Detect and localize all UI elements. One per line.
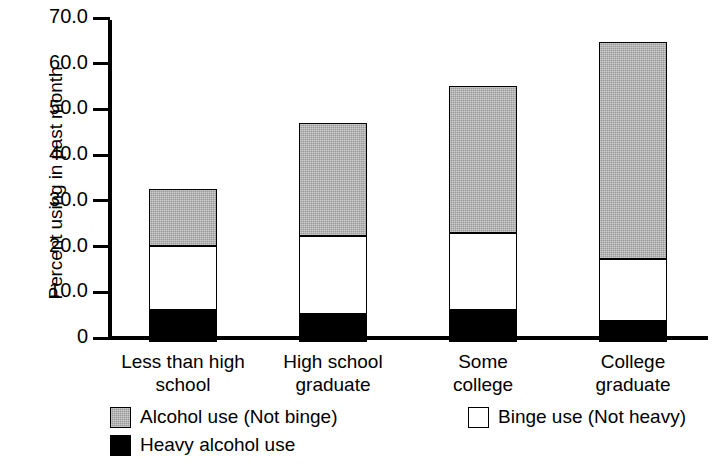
legend-swatch-black-icon [110,435,131,456]
bar-segment-alcohol-use [449,86,517,233]
y-tick-label: 0 [0,325,88,348]
legend-label-heavy-alcohol-use: Heavy alcohol use [140,434,295,456]
y-tick-label: 40.0 [0,142,88,165]
bar-segment-heavy-alcohol-use [449,310,517,342]
bar-segment-binge-use [449,233,517,310]
bar-group [599,22,667,342]
x-axis-label-line: College [538,350,726,373]
bar-segment-alcohol-use [299,123,367,236]
y-tick-label: 70.0 [0,5,88,28]
legend-item-alcohol-use: Alcohol use (Not binge) [110,406,338,428]
bar-segment-binge-use [299,236,367,314]
legend-label-alcohol-use: Alcohol use (Not binge) [140,406,338,428]
bar-segment-heavy-alcohol-use [299,314,367,342]
legend-label-binge-use: Binge use (Not heavy) [498,406,686,428]
x-axis-label: Collegegraduate [538,350,726,396]
bar-segment-heavy-alcohol-use [149,310,217,342]
bar-segment-alcohol-use [149,189,217,246]
legend-item-binge-use: Binge use (Not heavy) [468,406,686,428]
chart-legend: Alcohol use (Not binge) Binge use (Not h… [104,406,704,462]
bar-segment-binge-use [149,246,217,310]
bar-segment-alcohol-use [599,42,667,259]
y-tick-label: 60.0 [0,51,88,74]
plot-area [108,18,708,342]
bar-group [449,22,517,342]
x-axis-label-line: graduate [538,373,726,396]
y-tick-label: 20.0 [0,234,88,257]
y-tick-label: 10.0 [0,279,88,302]
legend-item-heavy-alcohol-use: Heavy alcohol use [110,434,295,456]
bar-group [299,22,367,342]
legend-swatch-white-icon [468,407,489,428]
y-tick-label: 30.0 [0,188,88,211]
bar-group [149,22,217,342]
legend-swatch-gray-icon [110,407,131,428]
stacked-bar-chart: Percent using in past month 010.020.030.… [0,0,726,469]
bar-segment-binge-use [599,259,667,321]
bar-segment-heavy-alcohol-use [599,321,667,342]
y-tick-label: 50.0 [0,96,88,119]
